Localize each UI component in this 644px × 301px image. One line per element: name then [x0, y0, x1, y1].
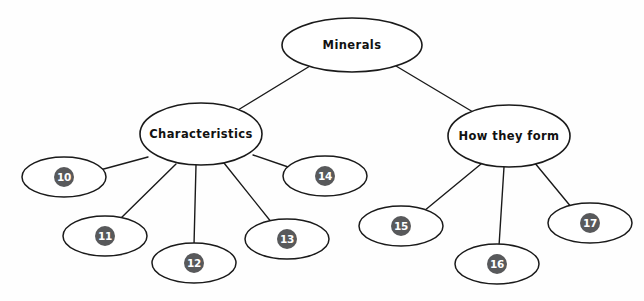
- badge-number-13: 13: [280, 233, 294, 245]
- badge-number-14: 14: [318, 170, 332, 182]
- node-badge-11[interactable]: 11: [63, 216, 147, 256]
- nodes-layer: MineralsCharacteristicsHow they form: [140, 18, 570, 167]
- node-label-how-they-form: How they form: [459, 129, 560, 143]
- connector-line: [119, 164, 176, 220]
- node-characteristics[interactable]: Characteristics: [140, 103, 262, 165]
- node-minerals[interactable]: Minerals: [282, 18, 422, 72]
- node-how-they-form[interactable]: How they form: [448, 105, 570, 167]
- badge-number-12: 12: [187, 257, 201, 269]
- diagram-canvas: MineralsCharacteristicsHow they form 101…: [0, 0, 644, 301]
- node-badge-12[interactable]: 12: [152, 243, 236, 283]
- connector-line: [396, 66, 473, 112]
- concept-map-diagram: MineralsCharacteristicsHow they form 101…: [0, 0, 644, 301]
- node-badge-17[interactable]: 17: [548, 203, 632, 243]
- connector-line: [194, 165, 196, 245]
- connector-line: [238, 66, 310, 110]
- badge-number-15: 15: [394, 220, 408, 232]
- badge-number-16: 16: [490, 258, 504, 270]
- connector-line: [224, 163, 272, 223]
- connector-line: [100, 157, 148, 170]
- node-badge-15[interactable]: 15: [359, 206, 443, 246]
- node-label-characteristics: Characteristics: [149, 127, 253, 141]
- node-badge-13[interactable]: 13: [245, 219, 329, 259]
- node-badge-14[interactable]: 14: [283, 156, 367, 196]
- badge-number-11: 11: [98, 230, 112, 242]
- connector-line: [534, 162, 572, 208]
- badge-number-10: 10: [57, 171, 71, 183]
- node-label-minerals: Minerals: [323, 38, 382, 52]
- connector-line: [424, 164, 481, 211]
- connector-line: [499, 167, 504, 246]
- node-badge-10[interactable]: 10: [22, 157, 106, 197]
- node-badge-16[interactable]: 16: [455, 244, 539, 284]
- badges-layer: 1011121314151617: [22, 156, 632, 284]
- badge-number-17: 17: [583, 217, 597, 229]
